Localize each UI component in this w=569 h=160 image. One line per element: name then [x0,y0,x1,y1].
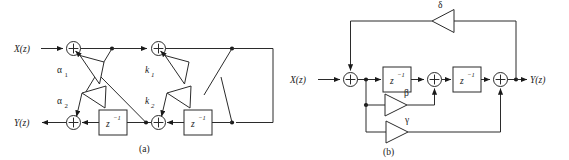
panel-b-gain-gamma-label: γ [404,115,409,125]
panel-b: X(z) Y(z) z −1 z [289,0,545,158]
panel-b-adder-1 [344,73,358,87]
panel-b-gain-delta-label: δ [438,0,443,10]
panel-a-gain-k1: k 1 [145,51,189,84]
panel-a-gain-k1-label: k [145,65,150,75]
panel-a-delay-1-exp: −1 [113,114,121,121]
panel-a-input-label: X(z) [13,44,30,55]
panel-b-gain-gamma: γ [386,115,409,143]
panel-a-gain-alpha1: α 1 [57,51,104,84]
panel-b-delay-1-base: z [389,76,394,86]
panel-b-output-label: Y(z) [530,75,545,86]
panel-b-delay-1-exp: −1 [397,71,405,78]
panel-b-delay-2-base: z [459,76,464,86]
panel-b-delay-2-exp: −1 [467,71,475,78]
panel-b-adder-3 [494,73,508,87]
panel-b-adder-2 [428,73,442,87]
panel-a-gain-k2-label: k [145,96,150,106]
panel-a-adder-4 [152,116,166,130]
panel-a-stage2-diag-down [204,49,232,96]
panel-b-caption: (b) [383,147,394,158]
panel-a-gain-alpha1-sub: 1 [65,71,68,78]
panel-a-adder-3 [67,116,81,130]
panel-a-output-label: Y(z) [14,118,29,129]
panel-b-input-label: X(z) [289,75,306,86]
panel-a-delay-2-exp: −1 [198,114,206,121]
panel-b-gain-beta-label: β [404,88,409,98]
panel-a-gain-alpha2-label: α [57,96,62,106]
panel-a-gain-alpha2-sub: 2 [65,102,69,109]
figure-signal-flow-graphs: X(z) Y(z) [0,0,569,160]
panel-a-delay-block-1: z −1 [99,110,127,135]
panel-a-caption: (a) [139,144,150,155]
panel-b-delay-block-2: z −1 [453,67,481,92]
panel-a-stage2-diag-up [221,77,232,123]
panel-a-delay-block-2: z −1 [184,110,212,135]
panel-a-delay-1-base: z [105,119,110,129]
panel-b-gain-delta: δ [432,0,454,33]
panel-a-gain-alpha1-label: α [57,65,62,75]
panel-a-gain-k1-sub: 1 [151,71,154,78]
panel-a: X(z) Y(z) [13,42,273,156]
panel-a-gain-k2-sub: 2 [151,102,155,109]
panel-a-delay-2-base: z [190,119,195,129]
